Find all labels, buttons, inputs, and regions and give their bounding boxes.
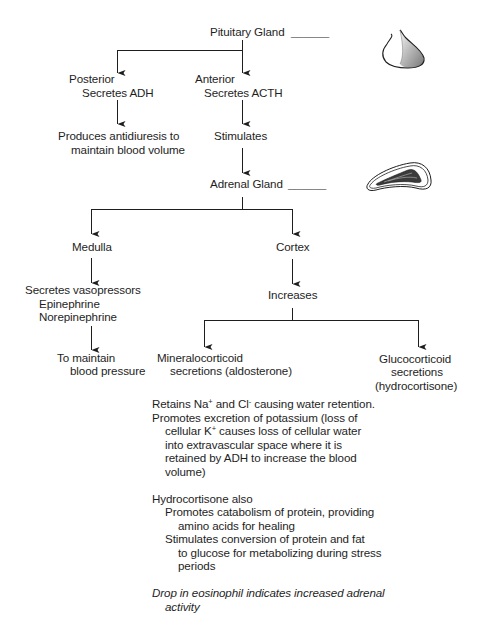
adrenal-gland-icon: [364, 160, 436, 194]
glucocorticoid-line1: Glucocorticoid: [379, 352, 451, 366]
posterior-effect-line2: maintain blood volume: [71, 143, 185, 157]
glucocorticoid-line2: secretions: [391, 365, 443, 379]
note-hydro-conversion-line2: to glucose for metabolizing during stres…: [152, 546, 385, 560]
note-hydro-conversion-line3: periods: [152, 559, 385, 573]
note-hydro-conversion-line1: Stimulates conversion of protein and fat: [152, 532, 385, 546]
adrenal-gland-label: Adrenal Gland: [210, 177, 283, 191]
posterior-title: Posterior: [69, 72, 115, 86]
note-retains: Retains Na+ and Cl- causing water retent…: [152, 397, 385, 411]
note-eosinophil-line2: activity: [152, 600, 385, 614]
medulla-line1: Secretes vasopressors: [25, 283, 141, 297]
glucocorticoid-line3: (hydrocortisone): [375, 379, 457, 393]
pituitary-blank: ______: [291, 25, 329, 39]
posterior-effect-line1: Produces antidiuresis to: [58, 129, 179, 143]
mineralocorticoid-line2: secretions (aldosterone): [170, 364, 292, 378]
posterior-action: Secretes ADH: [82, 86, 154, 100]
medulla-line3: Norepinephrine: [39, 310, 117, 324]
note-eosinophil-line1: Drop in eosinophil indicates increased a…: [152, 586, 385, 600]
anterior-effect: Stimulates: [214, 129, 267, 143]
note-hydro-catabolism-line2: amino acids for healing: [152, 519, 385, 533]
note-promotes-line1: Promotes excretion of potassium (loss of: [152, 411, 385, 425]
medulla-effect-line1: To maintain: [57, 351, 115, 365]
anterior-action: Secretes ACTH: [204, 86, 283, 100]
adrenal-blank: ______: [288, 177, 326, 191]
mineralocorticoid-line1: Mineralocorticoid: [157, 351, 243, 365]
note-hydrocortisone-title: Hydrocortisone also: [152, 492, 385, 506]
note-promotes-line4: retained by ADH to increase the blood: [152, 451, 385, 465]
medulla-title: Medulla: [72, 240, 112, 254]
note-promotes-line3: into extravascular space where it is: [152, 438, 385, 452]
note-promotes-line2: cellular K+ causes loss of cellular wate…: [152, 424, 385, 438]
notes-block: Retains Na+ and Cl- causing water retent…: [152, 397, 385, 613]
note-promotes-line5: volume): [152, 465, 385, 479]
cortex-effect: Increases: [268, 288, 317, 302]
pituitary-gland-label: Pituitary Gland: [210, 25, 285, 39]
medulla-effect-line2: blood pressure: [70, 364, 145, 378]
anterior-title: Anterior: [195, 72, 235, 86]
medulla-line2: Epinephrine: [39, 297, 100, 311]
note-hydro-catabolism-line1: Promotes catabolism of protein, providin…: [152, 505, 385, 519]
pituitary-gland-icon: [378, 26, 428, 72]
cortex-title: Cortex: [276, 240, 310, 254]
